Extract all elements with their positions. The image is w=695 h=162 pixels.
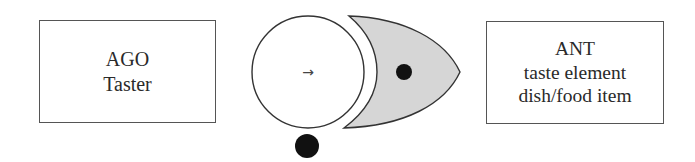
dish-food-item-label: dish/food item (518, 84, 631, 107)
ant-label: ANT (555, 37, 595, 60)
ant-taste-element-box: ANT taste element dish/food item (486, 21, 664, 124)
inner-dot (396, 64, 412, 80)
bottom-dot (295, 134, 319, 158)
arrow-right-icon: → (302, 64, 314, 80)
taste-element-label: taste element (524, 61, 626, 84)
